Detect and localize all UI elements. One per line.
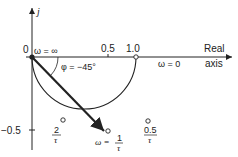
omega-1-tau-prefix: ω = [95,137,110,147]
polar-plot: j 0 ω = ∞ 0.5 1.0 Real axis ω = 0 φ = −4… [0,0,238,157]
imag-axis-label: j [35,6,40,17]
point-1-tau [106,129,110,133]
phi-arc [51,57,58,75]
frac-1-den: τ [117,143,121,153]
frac-2-num: 2 [54,125,59,135]
frac-half-num: 0.5 [144,125,157,135]
origin-label: 0 [23,44,29,55]
omega-zero-label: ω = 0 [158,59,180,69]
real-axis-label-line2: axis [205,58,223,69]
omega-inf-label: ω = ∞ [34,46,58,56]
tick-neg-0-5-label: −0.5 [1,125,21,136]
frac-1-num: 1 [117,133,122,143]
phi-label: φ = −45° [61,62,96,72]
tick-0-5-label: 0.5 [101,43,115,54]
tick-1-0-label: 1.0 [126,43,140,54]
frac-2-den: τ [54,135,58,145]
point-2-tau [61,118,65,122]
point-omega-zero [134,55,138,59]
point-0-5-tau [146,119,150,123]
real-axis-label-line1: Real [204,43,225,54]
frac-half-den: τ [148,135,152,145]
